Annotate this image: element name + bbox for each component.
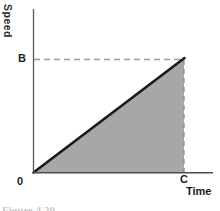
x-axis-title: Time (186, 186, 211, 197)
y-tick-label-b: B (18, 53, 26, 64)
speed-time-figure: Speed B 0 C Time Figure 4.20 (0, 0, 220, 211)
y-axis-title: Speed (2, 4, 13, 38)
origin-label: 0 (17, 176, 23, 187)
x-tick-label-c: C (180, 174, 188, 185)
figure-caption: Figure 4.20 (2, 204, 55, 211)
